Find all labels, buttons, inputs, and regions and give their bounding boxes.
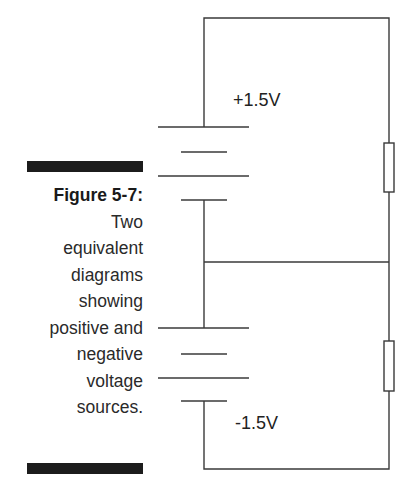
resistor-top-icon [384,143,394,192]
negative-voltage-label: -1.5V [235,413,278,434]
positive-voltage-label: +1.5V [233,90,281,111]
bottom-wire [204,391,389,469]
resistor-bottom-icon [384,341,394,391]
battery-bottom-icon [158,328,249,401]
circuit-diagram [0,0,416,498]
top-wire [204,18,389,143]
battery-top-icon [158,127,249,200]
